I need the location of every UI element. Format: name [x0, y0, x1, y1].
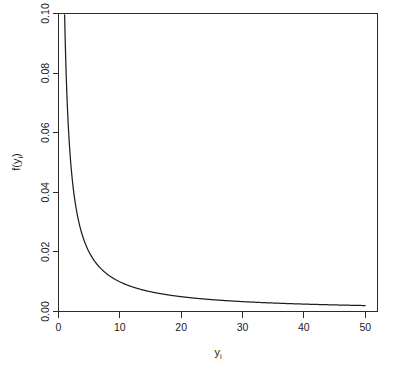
x-tick-label: 20 [175, 321, 187, 333]
y-tick-label: 0.04 [39, 182, 51, 203]
chart-figure: 0.000.020.040.060.080.10 01020304050 yi … [0, 0, 393, 373]
x-axis-title: yi [214, 346, 222, 361]
y-axis-ticks [53, 14, 59, 312]
y-axis-tick-labels: 0.000.020.040.060.080.10 [39, 3, 51, 322]
y-tick-label: 0.06 [39, 122, 51, 143]
y-axis-title-base-open: f(y [10, 158, 22, 171]
x-axis-ticks [59, 312, 366, 318]
x-axis-title-subscript: i [220, 352, 222, 361]
y-tick-label: 0.00 [39, 301, 51, 322]
x-tick-label: 10 [114, 321, 126, 333]
y-tick-label: 0.02 [39, 242, 51, 263]
y-tick-label: 0.08 [39, 63, 51, 84]
x-tick-label: 50 [359, 321, 371, 333]
x-tick-label: 30 [237, 321, 249, 333]
x-axis-tick-labels: 01020304050 [56, 321, 372, 333]
y-axis-title-base-close: ) [10, 153, 22, 157]
plot-canvas: 0.000.020.040.060.080.10 01020304050 yi … [0, 0, 393, 373]
x-tick-label: 0 [56, 321, 62, 333]
y-axis-title: f(yi) [10, 153, 25, 171]
plot-frame [59, 14, 378, 312]
data-series-line [65, 15, 366, 306]
y-tick-label: 0.10 [39, 3, 51, 24]
x-tick-label: 40 [298, 321, 310, 333]
